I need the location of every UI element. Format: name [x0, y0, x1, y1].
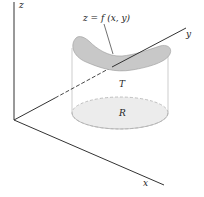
region-r-label: R: [118, 108, 126, 118]
y-axis-hidden: [55, 67, 112, 98]
x-axis-label: x: [143, 178, 148, 188]
surface-leader-line: [104, 24, 113, 54]
y-axis-label: y: [185, 29, 192, 39]
x-axis: [14, 120, 164, 185]
y-axis-front: [14, 98, 55, 120]
z-axis-label: z: [18, 0, 24, 10]
solid-t-label: T: [119, 79, 126, 89]
surface-over-region-diagram: z y x z = f (x, y) T R: [0, 0, 204, 197]
surface-patch: [73, 37, 171, 71]
surface-label: z = f (x, y): [82, 13, 131, 23]
